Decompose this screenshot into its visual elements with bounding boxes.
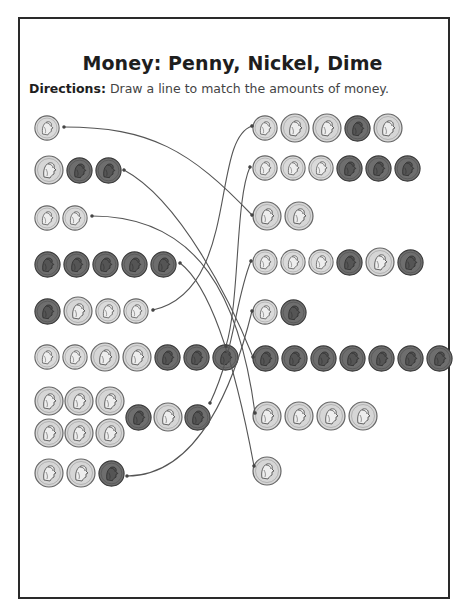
nickel-coin-icon <box>34 155 64 185</box>
penny-coin-icon <box>150 251 177 278</box>
penny-coin-icon <box>310 345 337 372</box>
dime-coin-icon <box>252 249 278 275</box>
dime-coin-icon <box>308 155 334 181</box>
nickel-coin-icon <box>280 113 310 143</box>
nickel-coin-icon <box>66 458 96 488</box>
penny-coin-icon <box>344 115 371 142</box>
penny-coin-icon <box>426 345 453 372</box>
penny-coin-icon <box>92 251 119 278</box>
nickel-coin-icon <box>316 401 346 431</box>
penny-coin-icon <box>368 345 395 372</box>
penny-coin-icon <box>63 251 90 278</box>
nickel-coin-icon <box>373 113 403 143</box>
dime-coin-icon <box>34 205 60 231</box>
penny-coin-icon <box>280 299 307 326</box>
penny-coin-icon <box>66 157 93 184</box>
nickel-coin-icon <box>312 113 342 143</box>
nickel-coin-icon <box>34 386 64 416</box>
dime-coin-icon <box>123 298 149 324</box>
penny-coin-icon <box>394 155 421 182</box>
penny-coin-icon <box>125 404 152 431</box>
nickel-coin-icon <box>153 402 183 432</box>
nickel-coin-icon <box>252 201 282 231</box>
nickel-coin-icon <box>63 296 93 326</box>
dime-coin-icon <box>280 155 306 181</box>
nickel-coin-icon <box>34 418 64 448</box>
penny-coin-icon <box>212 344 239 371</box>
penny-coin-icon <box>98 460 125 487</box>
penny-coin-icon <box>336 155 363 182</box>
dime-coin-icon <box>252 299 278 325</box>
nickel-coin-icon <box>95 418 125 448</box>
nickel-coin-icon <box>90 342 120 372</box>
nickel-coin-icon <box>365 247 395 277</box>
penny-coin-icon <box>34 251 61 278</box>
nickel-coin-icon <box>122 342 152 372</box>
penny-coin-icon <box>397 345 424 372</box>
dime-coin-icon <box>34 115 60 141</box>
nickel-coin-icon <box>95 386 125 416</box>
dime-coin-icon <box>252 115 278 141</box>
dime-coin-icon <box>308 249 334 275</box>
dime-coin-icon <box>252 155 278 181</box>
dime-coin-icon <box>34 344 60 370</box>
dime-coin-icon <box>280 249 306 275</box>
nickel-coin-icon <box>252 401 282 431</box>
penny-coin-icon <box>183 344 210 371</box>
worksheet-title: Money: Penny, Nickel, Dime <box>0 52 465 74</box>
nickel-coin-icon <box>34 458 64 488</box>
nickel-coin-icon <box>64 418 94 448</box>
penny-coin-icon <box>365 155 392 182</box>
dime-coin-icon <box>62 205 88 231</box>
penny-coin-icon <box>336 249 363 276</box>
nickel-coin-icon <box>252 456 282 486</box>
dime-coin-icon <box>62 344 88 370</box>
directions-label: Directions: <box>29 81 106 96</box>
directions-text: Draw a line to match the amounts of mone… <box>106 81 389 96</box>
penny-coin-icon <box>339 345 366 372</box>
dime-coin-icon <box>95 298 121 324</box>
nickel-coin-icon <box>64 386 94 416</box>
penny-coin-icon <box>121 251 148 278</box>
nickel-coin-icon <box>348 401 378 431</box>
penny-coin-icon <box>397 249 424 276</box>
penny-coin-icon <box>184 404 211 431</box>
penny-coin-icon <box>252 345 279 372</box>
nickel-coin-icon <box>284 401 314 431</box>
penny-coin-icon <box>34 298 61 325</box>
directions: Directions: Draw a line to match the amo… <box>29 81 389 96</box>
penny-coin-icon <box>281 345 308 372</box>
penny-coin-icon <box>154 344 181 371</box>
nickel-coin-icon <box>284 201 314 231</box>
penny-coin-icon <box>95 157 122 184</box>
